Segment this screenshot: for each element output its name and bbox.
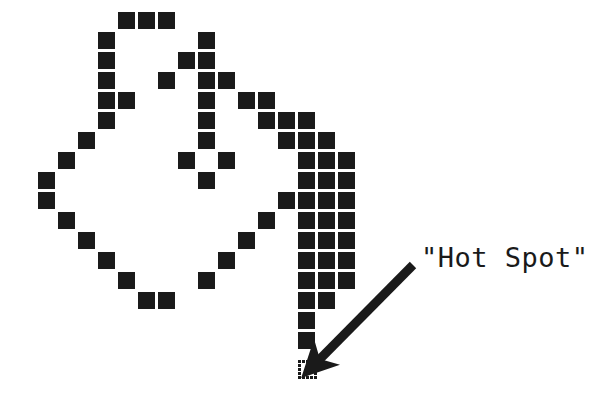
cursor-pixel bbox=[278, 112, 295, 129]
cursor-pixel bbox=[38, 192, 55, 209]
cursor-pixel-grid bbox=[0, 0, 593, 396]
cursor-pixel bbox=[298, 152, 315, 169]
cursor-pixel bbox=[138, 292, 155, 309]
cursor-pixel bbox=[238, 92, 255, 109]
cursor-pixel bbox=[298, 212, 315, 229]
cursor-pixel bbox=[118, 92, 135, 109]
cursor-pixel bbox=[338, 152, 355, 169]
cursor-pixel bbox=[118, 12, 135, 29]
cursor-pixel bbox=[318, 192, 335, 209]
cursor-pixel bbox=[298, 192, 315, 209]
cursor-pixel bbox=[198, 52, 215, 69]
cursor-pixel bbox=[198, 32, 215, 49]
cursor-pixel bbox=[198, 92, 215, 109]
cursor-pixel bbox=[298, 112, 315, 129]
hotspot-label: "Hot Spot" bbox=[421, 243, 589, 273]
cursor-pixel bbox=[138, 12, 155, 29]
cursor-pixel bbox=[198, 172, 215, 189]
cursor-pixel bbox=[218, 152, 235, 169]
cursor-pixel bbox=[98, 112, 115, 129]
cursor-pixel bbox=[318, 232, 335, 249]
cursor-pixel bbox=[318, 212, 335, 229]
cursor-pixel bbox=[278, 192, 295, 209]
cursor-pixel bbox=[78, 232, 95, 249]
cursor-pixel bbox=[198, 132, 215, 149]
cursor-pixel bbox=[98, 72, 115, 89]
cursor-pixel bbox=[298, 172, 315, 189]
cursor-pixel bbox=[338, 212, 355, 229]
cursor-pixel bbox=[298, 312, 315, 329]
cursor-pixel bbox=[338, 272, 355, 289]
cursor-pixel bbox=[318, 172, 335, 189]
cursor-pixel bbox=[318, 272, 335, 289]
cursor-pixel bbox=[158, 292, 175, 309]
cursor-pixel bbox=[258, 112, 275, 129]
cursor-pixel bbox=[338, 252, 355, 269]
cursor-pixel bbox=[198, 112, 215, 129]
cursor-pixel bbox=[158, 12, 175, 29]
cursor-pixel bbox=[318, 292, 335, 309]
cursor-pixel bbox=[198, 72, 215, 89]
hotspot-marker bbox=[298, 360, 317, 379]
cursor-pixel bbox=[278, 132, 295, 149]
cursor-pixel bbox=[218, 72, 235, 89]
cursor-pixel bbox=[298, 272, 315, 289]
cursor-pixel bbox=[98, 32, 115, 49]
cursor-pixel bbox=[58, 152, 75, 169]
cursor-pixel bbox=[198, 272, 215, 289]
cursor-pixel bbox=[338, 192, 355, 209]
cursor-pixel bbox=[318, 152, 335, 169]
cursor-pixel bbox=[38, 172, 55, 189]
cursor-pixel bbox=[338, 172, 355, 189]
cursor-pixel bbox=[258, 212, 275, 229]
cursor-pixel bbox=[218, 252, 235, 269]
cursor-pixel bbox=[98, 52, 115, 69]
cursor-pixel bbox=[78, 132, 95, 149]
cursor-pixel bbox=[298, 292, 315, 309]
cursor-pixel bbox=[158, 72, 175, 89]
cursor-pixel bbox=[298, 132, 315, 149]
hotspot-cursor-figure: "Hot Spot" bbox=[0, 0, 593, 396]
cursor-pixel bbox=[178, 52, 195, 69]
cursor-pixel bbox=[58, 212, 75, 229]
cursor-pixel bbox=[318, 252, 335, 269]
cursor-pixel bbox=[318, 132, 335, 149]
cursor-pixel bbox=[298, 332, 315, 349]
cursor-pixel bbox=[98, 92, 115, 109]
cursor-pixel bbox=[338, 232, 355, 249]
cursor-pixel bbox=[298, 252, 315, 269]
cursor-pixel bbox=[298, 232, 315, 249]
cursor-pixel bbox=[178, 152, 195, 169]
cursor-pixel bbox=[258, 92, 275, 109]
cursor-pixel bbox=[238, 232, 255, 249]
cursor-pixel bbox=[118, 272, 135, 289]
cursor-pixel bbox=[98, 252, 115, 269]
